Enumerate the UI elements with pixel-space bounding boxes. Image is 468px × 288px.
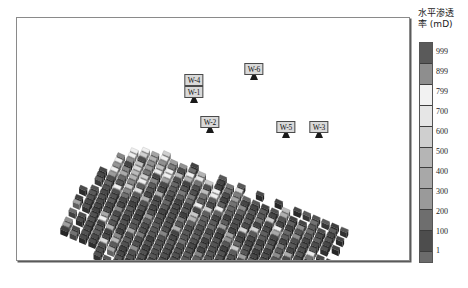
colorbar-tick: 999	[436, 48, 448, 56]
well-label[interactable]: W-4	[184, 74, 203, 86]
colorbar-band	[420, 64, 432, 85]
colorbar-gradient	[419, 42, 433, 263]
colorbar-tick: 700	[436, 108, 448, 116]
colorbar-band	[420, 148, 432, 169]
colorbar-band	[420, 127, 432, 148]
colorbar-band	[420, 231, 432, 252]
screenshot-root: W-4W-1W-6W-2W-5W-3 水平渗透 率 (mD) 999899799…	[0, 0, 468, 288]
colorbar-band	[420, 252, 432, 263]
colorbar-title: 水平渗透 率 (mD)	[418, 8, 468, 30]
colorbar-title-line1: 水平渗透	[418, 8, 454, 18]
well-label[interactable]: W-6	[244, 63, 263, 75]
colorbar-tick: 600	[436, 128, 448, 136]
colorbar-tick: 400	[436, 168, 448, 176]
colorbar-band	[420, 168, 432, 189]
colorbar-tick: 799	[436, 88, 448, 96]
well-label[interactable]: W-5	[276, 121, 295, 133]
colorbar-tick: 100	[436, 228, 448, 236]
colorbar-band	[420, 43, 432, 64]
colorbar-tick: 500	[436, 148, 448, 156]
colorbar-band	[420, 85, 432, 106]
colorbar-tick: 200	[436, 208, 448, 216]
colorbar-tick: 300	[436, 188, 448, 196]
well-label[interactable]: W-1	[184, 86, 203, 98]
well-annotation-layer: W-4W-1W-6W-2W-5W-3	[17, 18, 409, 260]
colorbar-tick: 1	[436, 247, 440, 255]
permeability-map-panel: W-4W-1W-6W-2W-5W-3	[16, 17, 410, 261]
colorbar-band	[420, 210, 432, 231]
colorbar-band	[420, 106, 432, 127]
colorbar-tick: 899	[436, 68, 448, 76]
colorbar-band	[420, 189, 432, 210]
colorbar-title-line2: 率 (mD)	[418, 19, 468, 30]
well-label[interactable]: W-3	[309, 121, 328, 133]
well-label[interactable]: W-2	[200, 116, 219, 128]
